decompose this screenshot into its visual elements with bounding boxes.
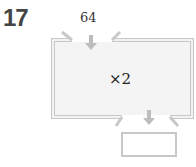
operation-label: ×2: [109, 70, 131, 88]
answer-box[interactable]: [122, 133, 176, 156]
function-machine-diagram: [0, 0, 196, 167]
